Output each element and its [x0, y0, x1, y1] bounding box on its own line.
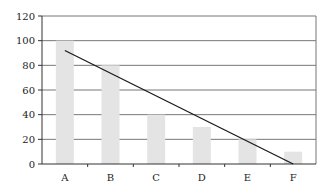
x-axis-ticks: ABCDEF	[60, 164, 296, 183]
y-tick-label: 60	[22, 85, 35, 96]
x-tick-label: D	[198, 172, 206, 183]
gridlines	[42, 16, 316, 139]
y-tick-label: 20	[22, 134, 35, 145]
y-tick-label: 100	[16, 35, 35, 46]
y-tick-label: 120	[16, 11, 35, 22]
x-tick-label: B	[107, 172, 114, 183]
x-tick-label: F	[290, 172, 297, 183]
trend-line-path	[65, 51, 293, 164]
bar-e	[239, 139, 257, 164]
y-axis-ticks: 020406080100120	[16, 11, 42, 170]
bar-a	[56, 41, 74, 164]
trend-line	[65, 51, 293, 164]
bars	[56, 41, 302, 164]
y-tick-label: 80	[22, 60, 35, 71]
x-tick-label: A	[60, 172, 69, 183]
bar-c	[147, 115, 165, 164]
y-tick-label: 0	[29, 159, 35, 170]
bar-chart: 020406080100120 ABCDEF	[0, 0, 334, 187]
x-tick-label: E	[244, 172, 251, 183]
bar-f	[284, 152, 302, 164]
x-tick-label: C	[152, 172, 160, 183]
bar-d	[193, 127, 211, 164]
bar-b	[102, 65, 120, 164]
y-tick-label: 40	[22, 109, 35, 120]
